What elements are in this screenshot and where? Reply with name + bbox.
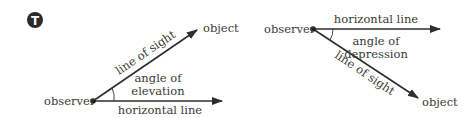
depression-angle-label-line1: angle of [353, 34, 401, 48]
elevation-angle-label-line1: angle of [135, 71, 183, 85]
depression-angle-arc [330, 29, 333, 40]
elevation-angle-label-line2: elevation [131, 84, 185, 98]
svg-text:T: T [31, 14, 40, 28]
elevation-diagram: observer object line of sight angle of e… [44, 21, 239, 117]
elevation-line-of-sight-label: line of sight [113, 27, 178, 77]
depression-diagram: observer object line of sight angle of d… [264, 12, 458, 109]
depression-object-label: object [422, 95, 458, 109]
elevation-angle-arc [112, 88, 114, 101]
angle-diagram: T observer object line of sight angle of… [0, 0, 476, 118]
elevation-observer-label: observer [44, 94, 96, 108]
depression-horizontal-label: horizontal line [334, 12, 418, 26]
elevation-horizontal-label: horizontal line [118, 103, 202, 117]
depression-observer-label: observer [264, 22, 316, 36]
section-badge-icon: T [27, 12, 43, 28]
elevation-object-label: object [203, 21, 239, 35]
depression-angle-label-line2: depression [344, 47, 408, 61]
